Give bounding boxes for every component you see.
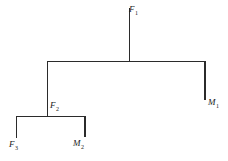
node-label-f2-subscript: 2 <box>56 106 59 112</box>
pedigree-diagram: F1 M1 F2 F3 M2 <box>0 0 228 161</box>
tree-connector-lines <box>0 0 228 161</box>
node-label-m2-subscript: 2 <box>81 144 84 150</box>
node-label-f3: F3 <box>9 140 18 151</box>
node-label-m2: M2 <box>73 139 84 150</box>
node-label-f2-symbol: F <box>50 100 56 110</box>
node-label-f1-subscript: 1 <box>135 10 138 16</box>
node-label-f2: F2 <box>50 101 59 112</box>
node-label-m1-symbol: M <box>208 97 216 107</box>
node-label-f3-symbol: F <box>9 139 15 149</box>
node-label-m2-symbol: M <box>73 138 81 148</box>
node-label-m1: M1 <box>208 98 219 109</box>
node-label-f1-symbol: F <box>129 4 135 14</box>
node-label-f3-subscript: 3 <box>15 145 18 151</box>
node-label-f1: F1 <box>129 5 138 16</box>
node-label-m1-subscript: 1 <box>216 103 219 109</box>
